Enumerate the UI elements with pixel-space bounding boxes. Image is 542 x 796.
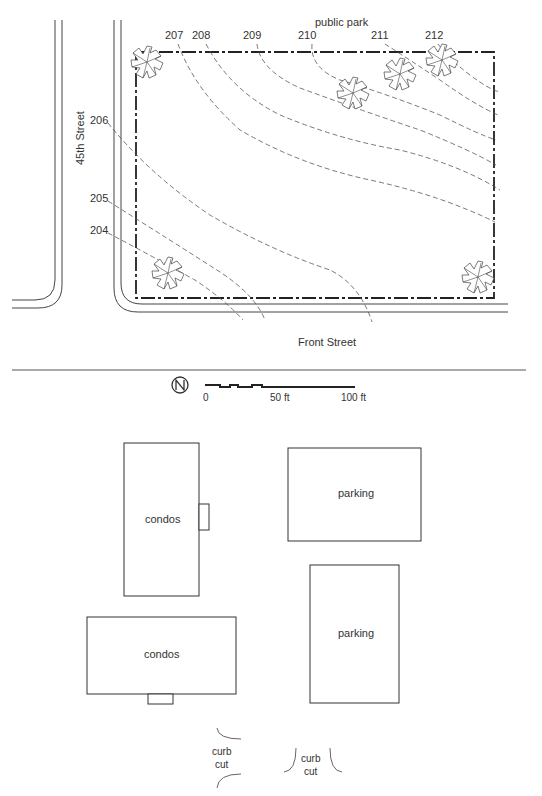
parking-1-label: parking (338, 487, 374, 499)
tree-icon (426, 44, 458, 76)
condos-2-label: condos (144, 648, 180, 660)
curb-cut-2: curb cut (284, 748, 342, 777)
contour-label-206: 206 (90, 114, 108, 126)
contour-label-209: 209 (243, 29, 261, 41)
curb-cut-1-label-line1: curb (212, 746, 232, 757)
site-analysis-drawing: 207 208 209 210 211 212 206 205 204 publ… (0, 0, 542, 796)
curb-cut-2-label-line1: curb (301, 753, 321, 764)
curb-cut-2-label-line2: cut (304, 766, 318, 777)
north-arrow-icon (172, 377, 188, 393)
contour-label-208: 208 (192, 29, 210, 41)
property-boundary (136, 52, 494, 298)
building-parking-2: parking (310, 565, 399, 703)
curb-cut-1-label-line2: cut (215, 759, 229, 770)
contour-label-207: 207 (165, 29, 183, 41)
45th-street-label: 45th Street (74, 111, 86, 165)
contour-label-210: 210 (298, 29, 316, 41)
contour-label-205: 205 (90, 192, 108, 204)
scale-bar: 0 50 ft 100 ft (203, 385, 366, 403)
scale-label-50: 50 ft (270, 392, 290, 403)
building-condos-2: condos (87, 617, 236, 704)
building-condos-1: condos (124, 443, 209, 596)
tree-icon (462, 261, 494, 293)
scale-label-100: 100 ft (341, 392, 366, 403)
curb-cut-1: curb cut (212, 728, 241, 788)
contour-label-204: 204 (90, 224, 108, 236)
parking-2-label: parking (338, 627, 374, 639)
tree-icon (337, 77, 369, 109)
contour-label-211: 211 (371, 29, 389, 41)
public-park-label: public park (315, 16, 369, 28)
trees (131, 44, 494, 293)
contour-label-212: 212 (425, 29, 443, 41)
building-parking-1: parking (288, 448, 421, 541)
scale-label-0: 0 (203, 392, 209, 403)
tree-icon (384, 58, 416, 90)
front-street-label: Front Street (298, 336, 356, 348)
condos-1-label: condos (145, 513, 181, 525)
tree-icon (152, 257, 184, 289)
